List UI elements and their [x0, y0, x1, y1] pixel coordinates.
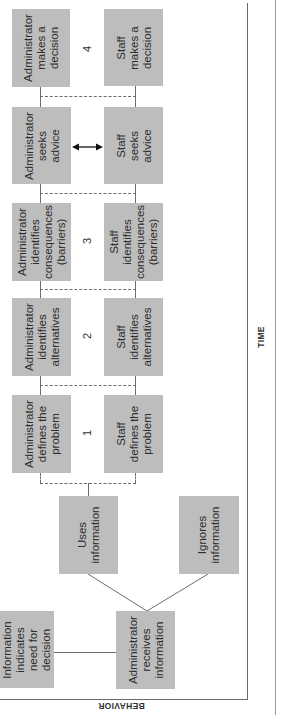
staff-defines-problem-label: Staff defines the problem	[114, 406, 153, 462]
stage-divider-1	[40, 385, 136, 386]
ignores-info-box: Ignores information	[179, 496, 239, 574]
stage-number-2: 2	[81, 333, 93, 339]
uses-info-box: Uses information	[59, 496, 118, 574]
stage1-bracket-right	[135, 473, 136, 483]
stage-divider-4	[40, 96, 136, 97]
staff-alternatives-label: Staff identifies alternatives	[114, 308, 153, 367]
staff-seeks-advice-label: Staff seeks advice	[114, 129, 153, 162]
admin-receives-info-label: Administrator receives information	[126, 616, 165, 684]
info-indicates-need-box: Information indicates need for decision	[0, 611, 54, 688]
staff-defines-problem-box: Staff defines the problem	[104, 395, 163, 473]
admin-seeks-advice-label: Administrator seeks advice	[22, 112, 61, 180]
admin-alternatives-label: Administrator identifies alternatives	[22, 303, 61, 371]
admin-makes-decision-box: Administrator makes a decision	[12, 9, 70, 87]
stage1-bracket-left	[40, 473, 41, 483]
stage1-bracket	[40, 483, 136, 484]
stage-number-3: 3	[81, 238, 93, 244]
admin-consequences-label: Administrator identifies consequences (b…	[16, 205, 68, 279]
stage-number-4: 4	[81, 46, 93, 52]
staff-consequences-label: Staff identifies consequences (barriers)	[108, 205, 160, 279]
admin-makes-decision-label: Administrator makes a decision	[22, 14, 61, 82]
ignores-info-label: Ignores information	[196, 507, 222, 564]
uses-to-define-connector	[88, 483, 89, 496]
staff-alternatives-box: Staff identifies alternatives	[104, 298, 163, 376]
admin-defines-problem-label: Administrator defines the problem	[22, 400, 61, 468]
admin-seeks-advice-box: Administrator seeks advice	[12, 107, 71, 184]
admin-stage-link-4	[40, 87, 41, 107]
stage-number-1: 1	[81, 430, 93, 436]
staff-seeks-advice-box: Staff seeks advice	[104, 107, 163, 184]
stage-divider-2	[40, 289, 136, 290]
info-indicates-need-label: Information indicates need for decision	[1, 621, 53, 679]
staff-consequences-box: Staff identifies consequences (barriers)	[104, 203, 163, 281]
admin-consequences-box: Administrator identifies consequences (b…	[12, 203, 71, 281]
admin-receives-info-box: Administrator receives information	[116, 611, 175, 689]
uses-info-label: Uses information	[76, 507, 102, 564]
stage-divider-3	[40, 193, 136, 194]
staff-makes-decision-box: Staff makes a decision	[104, 9, 163, 86]
staff-makes-decision-label: Staff makes a decision	[114, 26, 153, 69]
admin-defines-problem-box: Administrator defines the problem	[12, 395, 71, 473]
admin-alternatives-box: Administrator identifies alternatives	[12, 298, 71, 376]
